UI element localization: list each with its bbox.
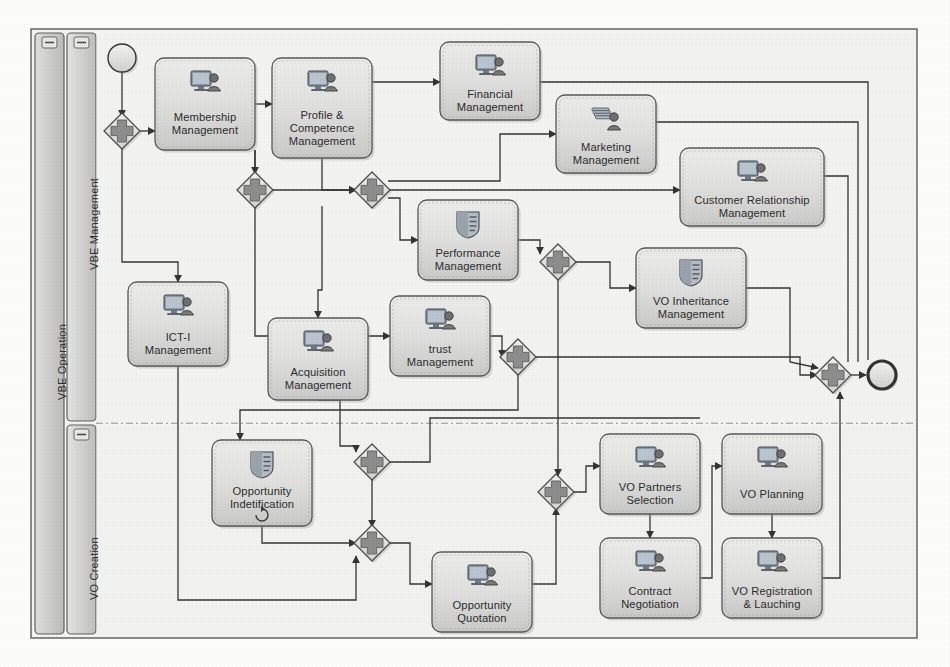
task-financial-management[interactable] [440, 42, 543, 123]
lane-vo-creation [67, 425, 96, 634]
task-trust-management[interactable] [390, 296, 493, 379]
task-profile-competence-management[interactable] [272, 58, 375, 161]
end-event[interactable] [868, 361, 898, 391]
task-performance-management[interactable] [418, 200, 521, 283]
lane-label-vbe-management: VBE Management [88, 178, 100, 270]
pool-label-vbe-operation: VBE Operation [56, 324, 68, 400]
task-marketing-management[interactable] [556, 95, 659, 176]
task-vo-planning[interactable] [722, 434, 825, 517]
task-opportunity-quotation[interactable] [432, 552, 535, 635]
task-customer-relationship-management[interactable] [680, 148, 827, 229]
bpmn-diagram-canvas: Membership ManagementProfile & Competenc… [0, 0, 950, 667]
task-contract-negotiation[interactable] [600, 538, 703, 621]
task-membership-management[interactable] [155, 58, 258, 153]
task-vo-inheritance-management[interactable] [636, 248, 749, 331]
server-shield-icon [680, 260, 702, 286]
task-opportunity-indetification[interactable] [212, 440, 315, 529]
task-vo-registration-lauching[interactable] [722, 538, 825, 621]
lane-label-vo-creation: VO Creation [88, 537, 100, 600]
task-vo-partners-selection[interactable] [600, 434, 703, 517]
task-acquisition-management[interactable] [268, 318, 371, 403]
server-shield-icon [251, 452, 273, 478]
task-ict-i-management[interactable] [128, 282, 231, 369]
bpmn-svg [0, 0, 950, 667]
server-shield-icon [457, 212, 479, 238]
